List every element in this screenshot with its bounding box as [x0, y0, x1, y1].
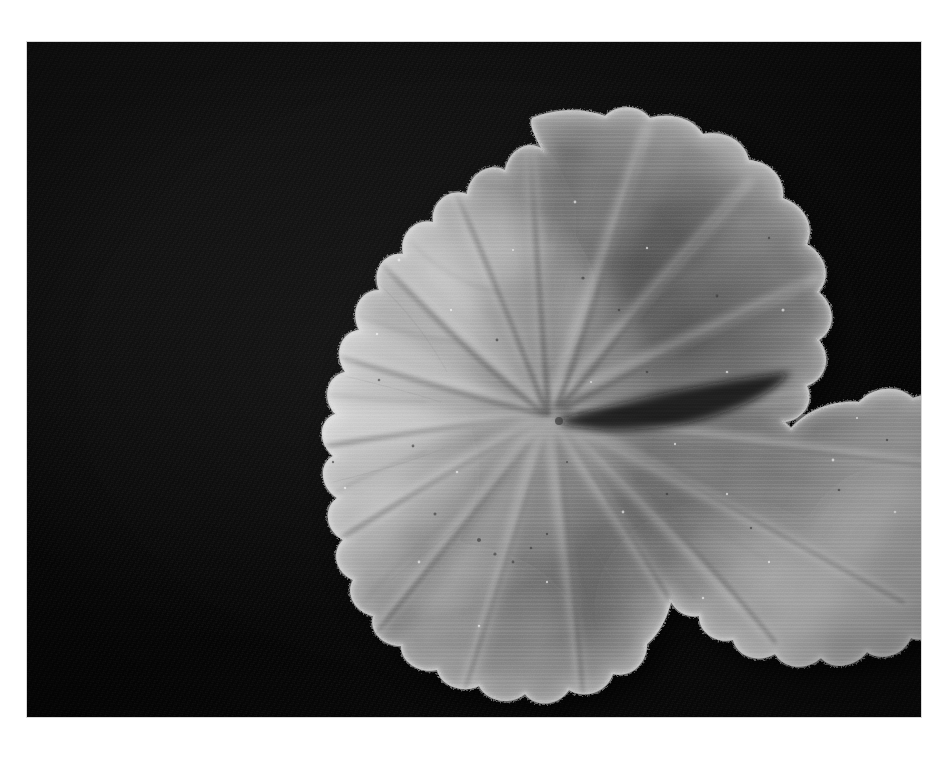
- leaf-lamina: [27, 42, 921, 717]
- plate-page: [0, 0, 944, 767]
- leaf-surface-grain: [27, 42, 921, 717]
- leaf-illustration: [27, 42, 921, 717]
- petiole-attachment-point: [555, 417, 563, 425]
- photograph: [27, 42, 921, 717]
